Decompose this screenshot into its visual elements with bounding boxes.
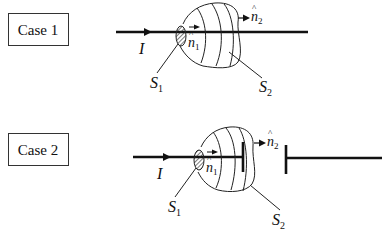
case-2-current-label: I	[156, 165, 163, 182]
case-2-surface-s1	[194, 150, 204, 170]
case-2-label-box: Case 2	[9, 134, 69, 166]
case-1-label-box: Case 1	[9, 14, 69, 46]
case-1-s2-label: S2	[259, 78, 272, 98]
case-2-s2-leader	[250, 185, 280, 210]
case-1-label: Case 1	[18, 22, 58, 38]
case-2-s1-leader	[175, 168, 196, 197]
normal-n1-arrowhead-icon	[212, 150, 218, 155]
normal-n2-arrowhead-icon	[259, 140, 266, 147]
case-2-s1-label: S1	[168, 198, 181, 218]
case-2-s2-label: S2	[272, 211, 285, 231]
case-1-current-label: I	[138, 40, 145, 57]
case-1-s1-leader	[157, 44, 178, 73]
ampere-maxwell-diagram: Case 1 I n1 ^ n2 ^	[0, 0, 386, 233]
current-arrow-icon	[163, 153, 171, 161]
current-arrow-icon	[144, 28, 152, 36]
case-1-panel: Case 1 I n1 ^ n2 ^	[9, 3, 309, 98]
normal-n2-arrowhead-icon	[243, 15, 250, 22]
case-1-surface-s1	[176, 26, 186, 46]
case-1-s1-label: S1	[150, 74, 163, 94]
normal-n1-arrowhead-icon	[194, 25, 200, 30]
case-2-label: Case 2	[18, 142, 58, 158]
case-2-panel: Case 2 I n1 ^ n2 ^	[9, 127, 383, 231]
